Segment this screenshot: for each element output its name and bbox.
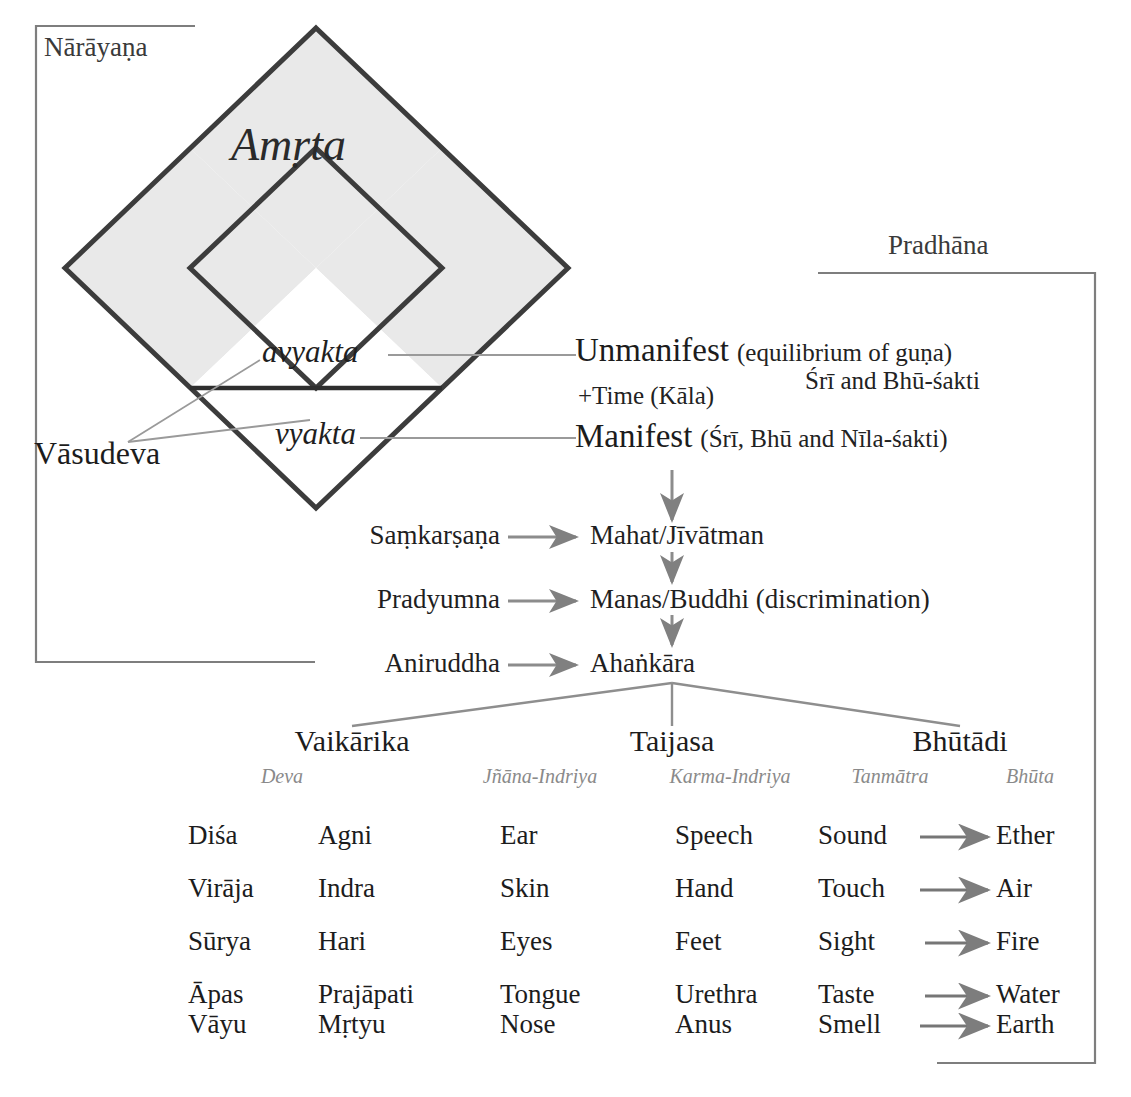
cell-r0-c2: Ear [500,822,537,849]
vyuha-source-2: Aniruddha [288,650,500,677]
cell-r0-c1: Agni [318,822,372,849]
cell-r3-c5: Water [996,981,1060,1008]
group-heading-bhutadi: Bhūtādi [830,726,1090,756]
narayana-box-label: Nārāyaṇa [44,34,147,61]
manifest-row: Manifest(Śrī, Bhū and Nīla-śakti) [575,420,948,453]
unmanifest-main-label: Unmanifest [575,332,729,368]
manifest-main-label: Manifest [575,418,692,454]
cell-r0-c0: Diśa [188,822,238,849]
cell-r3-c2: Tongue [500,981,581,1008]
unmanifest-paren-label: (equilibrium of guṇa) [737,339,952,366]
cell-r2-c2: Eyes [500,928,552,955]
cell-r1-c1: Indra [318,875,375,902]
cell-r1-c4: Touch [818,875,885,902]
column-header-jnana-indriya: Jñāna-Indriya [440,766,640,786]
vyakta-label: vyakta [275,418,356,449]
cell-r4-c3: Anus [675,1011,732,1038]
vasudeva-label: Vāsudeva [34,437,160,469]
amrta-label: Amṛta [231,122,346,168]
column-header-bhuta: Bhūta [960,766,1100,786]
group-heading-vaikarika: Vaikārika [222,726,482,756]
column-header-karma-indriya: Karma-Indriya [630,766,830,786]
avyakta-label: avyakta [262,336,358,367]
diagram-canvas: Nārāyaṇa Pradhāna Amṛta avyakta vyakta V… [0,0,1131,1097]
cell-r4-c4: Smell [818,1011,881,1038]
cell-r4-c0: Vāyu [188,1011,246,1038]
vyuha-target-1: Manas/Buddhi (discrimination) [590,586,930,613]
cell-r1-c5: Air [996,875,1032,902]
cell-r2-c3: Feet [675,928,722,955]
vyuha-target-0: Mahat/Jīvātman [590,522,764,549]
cell-r0-c4: Sound [818,822,887,849]
tanmatra-to-bhuta-arrows [920,837,988,1026]
cell-r2-c5: Fire [996,928,1040,955]
cell-r0-c3: Speech [675,822,753,849]
cell-r3-c3: Urethra [675,981,757,1008]
diagram-vector-layer [0,0,1131,1097]
cell-r1-c3: Hand [675,875,733,902]
cell-r1-c2: Skin [500,875,550,902]
column-header-deva: Deva [192,766,372,786]
group-heading-taijasa: Taijasa [542,726,802,756]
vyuha-source-1: Pradyumna [288,586,500,613]
cell-r2-c0: Sūrya [188,928,251,955]
cell-r3-c4: Taste [818,981,875,1008]
vyuha-target-2: Ahaṅkāra [590,650,695,677]
column-header-tanmatra: Tanmātra [810,766,970,786]
ahankara-fanout [352,683,960,726]
cell-r4-c2: Nose [500,1011,556,1038]
cell-r2-c4: Sight [818,928,875,955]
pradhana-box-label: Pradhāna [888,232,988,259]
cell-r2-c1: Hari [318,928,366,955]
cell-r4-c5: Earth [996,1011,1054,1038]
vyuha-source-0: Saṃkarṣaṇa [288,522,500,549]
cell-r1-c0: Virāja [188,875,254,902]
unmanifest-sub-label: Śrī and Bhū-śakti [805,368,980,393]
time-kala-label: +Time (Kāla) [578,383,714,408]
cell-r0-c5: Ether [996,822,1054,849]
cell-r3-c1: Prajāpati [318,981,414,1008]
cell-r3-c0: Āpas [188,981,244,1008]
manifest-paren-label: (Śrī, Bhū and Nīla-śakti) [700,425,947,452]
unmanifest-row: Unmanifest(equilibrium of guṇa) [575,334,952,367]
cell-r4-c1: Mṛtyu [318,1011,386,1038]
